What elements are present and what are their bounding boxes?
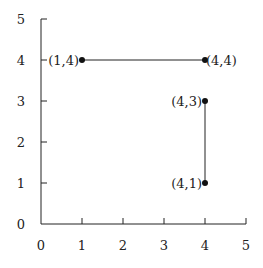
data-point — [79, 57, 85, 63]
data-point — [202, 180, 208, 186]
point-label: (1,4) — [48, 53, 79, 68]
point-label: (4,3) — [171, 94, 202, 109]
x-axis — [41, 218, 246, 224]
x-tick-label: 5 — [242, 238, 250, 253]
point-label: (4,1) — [171, 176, 202, 191]
y-tick-label: 4 — [17, 53, 25, 68]
y-axis — [41, 19, 47, 224]
y-tick-label: 1 — [17, 176, 25, 191]
axes — [41, 19, 246, 224]
x-tick-label: 1 — [78, 238, 86, 253]
ticks — [41, 60, 205, 224]
segments — [82, 60, 205, 183]
x-tick-label: 4 — [201, 238, 209, 253]
y-tick-label: 2 — [17, 135, 25, 150]
point-labels: (1,4)(4,4)(4,3)(4,1) — [48, 53, 237, 191]
y-tick-label: 3 — [17, 94, 25, 109]
x-tick-label: 2 — [119, 238, 127, 253]
tick-labels: 012345012345 — [17, 12, 250, 253]
x-tick-label: 0 — [37, 238, 45, 253]
data-points — [79, 57, 208, 186]
x-tick-label: 3 — [160, 238, 168, 253]
y-tick-label: 0 — [17, 217, 25, 232]
point-label: (4,4) — [206, 53, 237, 68]
chart: 012345012345 (1,4)(4,4)(4,3)(4,1) — [0, 0, 263, 268]
data-point — [202, 98, 208, 104]
y-tick-label: 5 — [17, 12, 25, 27]
